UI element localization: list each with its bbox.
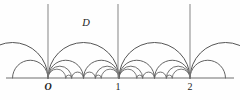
farey-arc-level3-5 [143,72,155,78]
tick-labels-group: O12 [44,81,192,92]
axis-tick-label-0: O [44,81,51,92]
vertical-geodesics-group [48,4,190,78]
farey-arc-level3-1 [72,72,84,78]
axis-tick-label-1: 1 [116,81,121,92]
domain-label-D: D [81,17,90,28]
farey-arc-level2-5 [190,60,226,78]
farey-arc-level1-3 [190,43,240,79]
farey-arc-level1-1 [48,43,119,78]
farey-arc-level1-0 [0,43,48,79]
farey-arc-level3-6 [155,72,167,78]
axis-tick-label-2: 2 [188,81,193,92]
figure-canvas: O12 D [0,0,240,100]
farey-arc-level1-2 [119,43,190,79]
farey-arcs-group [0,43,240,79]
farey-arc-level3-2 [84,72,96,78]
math-figure-modular-tessellation: O12 D [0,0,240,100]
farey-arc-level2-4 [13,60,49,78]
